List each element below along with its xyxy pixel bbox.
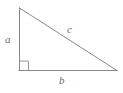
side-label-b: b [59,75,65,86]
triangle-side-c-line [20,8,118,71]
side-label-a: a [5,34,11,45]
side-label-c: c [67,24,72,35]
right-triangle-figure: a b c [0,0,123,93]
right-angle-marker-icon [20,61,29,70]
